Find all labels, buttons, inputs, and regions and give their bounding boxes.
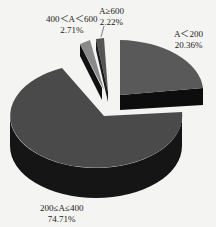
label-a-lt-200-name: A＜200 bbox=[174, 29, 203, 40]
label-200-400: 200≤A≤400 74.71% bbox=[40, 203, 83, 225]
label-400-600: 400＜A＜600 2.71% bbox=[46, 14, 98, 36]
label-400-600-pct: 2.71% bbox=[46, 25, 98, 36]
label-a-ge-600-pct: 2.22% bbox=[99, 17, 124, 28]
label-a-lt-200-pct: 20.36% bbox=[174, 40, 203, 51]
label-200-400-pct: 74.71% bbox=[40, 214, 83, 225]
label-a-lt-200: A＜200 20.36% bbox=[174, 29, 203, 51]
label-a-ge-600: A≥600 2.22% bbox=[99, 6, 124, 28]
label-200-400-name: 200≤A≤400 bbox=[40, 203, 83, 214]
label-a-ge-600-name: A≥600 bbox=[99, 6, 124, 17]
label-400-600-name: 400＜A＜600 bbox=[46, 14, 98, 25]
